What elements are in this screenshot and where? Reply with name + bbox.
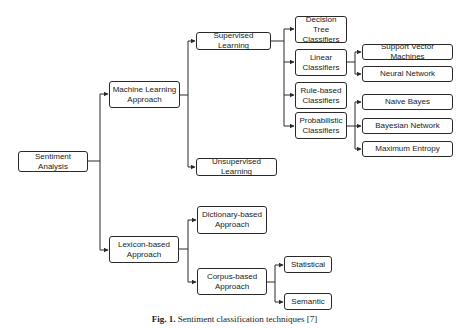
node-probabilistic-classifiers: Probabilistic Classifiers xyxy=(295,112,347,139)
node-dictionary-based-approach: Dictionary-based Approach xyxy=(197,206,267,234)
node-statistical: Statistical xyxy=(284,256,332,273)
node-maximum-entropy: Maximum Entropy xyxy=(362,141,453,157)
node-machine-learning-approach: Machine Learning Approach xyxy=(109,81,180,108)
node-corpus-based-approach: Corpus-based Approach xyxy=(197,268,267,295)
node-bayesian-network: Bayesian Network xyxy=(362,118,453,134)
node-support-vector-machines: Support Vector Machines xyxy=(362,44,453,60)
node-rule-based-classifiers: Rule-based Classifiers xyxy=(295,82,347,109)
caption-text: Sentiment classification techniques [7] xyxy=(178,314,318,324)
node-decision-tree-classifiers: Decision Tree Classifiers xyxy=(295,16,347,43)
caption-label: Fig. 1. xyxy=(152,314,176,324)
node-linear-classifiers: Linear Classifiers xyxy=(295,49,347,76)
figure-caption: Fig. 1. Sentiment classification techniq… xyxy=(0,314,469,324)
node-supervised-learning: Supervised Learning xyxy=(196,32,271,50)
node-unsupervised-learning: Unsupervised Learning xyxy=(196,158,277,176)
node-neural-network: Neural Network xyxy=(362,66,453,82)
node-lexicon-based-approach: Lexicon-based Approach xyxy=(109,236,179,263)
node-sentiment-analysis: Sentiment Analysis xyxy=(18,151,88,172)
sentiment-classification-diagram: Sentiment Analysis Machine Learning Appr… xyxy=(0,0,469,329)
node-semantic: Semantic xyxy=(284,293,332,310)
node-naive-bayes: Naive Bayes xyxy=(362,94,453,110)
